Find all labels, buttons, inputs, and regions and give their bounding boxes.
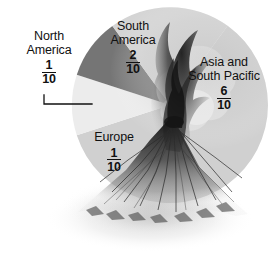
- fraction-numerator: 1: [107, 147, 121, 161]
- slice-fraction-asia-south-pacific: 6 10: [217, 85, 231, 112]
- slice-label-south-america-line2: America: [95, 34, 171, 48]
- slice-fraction-north-america: 1 10: [42, 59, 56, 86]
- fraction-numerator: 2: [126, 49, 140, 63]
- slice-fraction-south-america: 2 10: [126, 49, 140, 76]
- slice-label-south-america: South America 2 10: [95, 20, 171, 77]
- fraction-numerator: 6: [217, 85, 231, 99]
- slice-fraction-europe: 1 10: [107, 147, 121, 174]
- slice-label-north-america-line1: North: [6, 30, 92, 44]
- volcano-pie-chart-figure: North America 1 10 South America 2 10 As…: [0, 0, 276, 262]
- fraction-denominator: 10: [217, 99, 231, 112]
- slice-label-north-america-line2: America: [6, 44, 92, 58]
- slice-label-asia-line1: Asia and: [178, 56, 270, 70]
- fraction-denominator: 10: [42, 73, 56, 86]
- slice-label-asia-line2: South Pacific: [178, 70, 270, 84]
- slice-label-asia-south-pacific: Asia and South Pacific 6 10: [178, 56, 270, 113]
- fraction-denominator: 10: [107, 160, 121, 173]
- slice-label-south-america-line1: South: [95, 20, 171, 34]
- slice-label-europe-line1: Europe: [80, 131, 148, 145]
- fraction-numerator: 1: [42, 59, 56, 73]
- fraction-denominator: 10: [126, 63, 140, 76]
- slice-label-north-america: North America 1 10: [6, 30, 92, 87]
- slice-label-europe: Europe 1 10: [80, 131, 148, 174]
